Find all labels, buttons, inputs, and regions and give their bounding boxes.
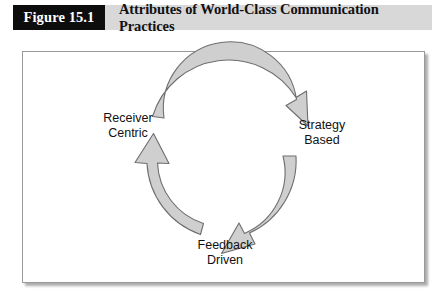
- cycle-node-feedback-driven: Feedback Driven: [185, 238, 265, 268]
- cycle-node-feedback-driven-line2: Driven: [185, 253, 265, 268]
- cycle-node-strategy-based-line2: Based: [282, 133, 362, 148]
- cycle-node-strategy-based-line1: Strategy: [282, 118, 362, 133]
- cycle-node-receiver-centric-line1: Receiver: [88, 111, 168, 126]
- cycle-node-strategy-based: Strategy Based: [282, 118, 362, 148]
- figure-header: Figure 15.1 Attributes of World-Class Co…: [13, 5, 432, 30]
- figure-title: Attributes of World-Class Communication …: [105, 5, 432, 30]
- cycle-node-receiver-centric-line2: Centric: [88, 126, 168, 141]
- cycle-node-receiver-centric: Receiver Centric: [88, 111, 168, 141]
- figure-number-badge: Figure 15.1: [13, 5, 105, 30]
- cycle-node-feedback-driven-line1: Feedback: [185, 238, 265, 253]
